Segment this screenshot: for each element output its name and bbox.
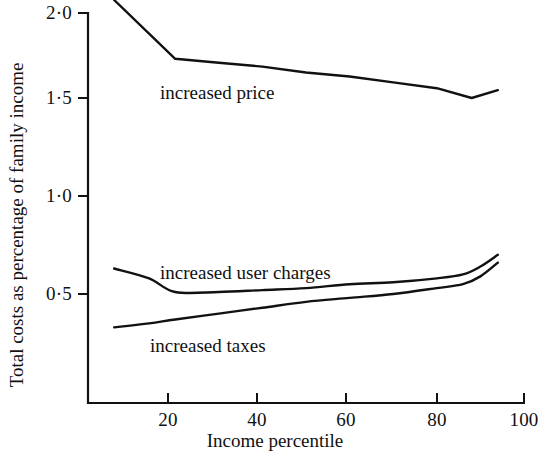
y-axis-ticks bbox=[78, 13, 88, 294]
series-label-increased-user-charges: increased user charges bbox=[160, 262, 331, 284]
x-tick-label-60: 60 bbox=[316, 409, 376, 431]
series-label-increased-price: increased price bbox=[160, 82, 274, 104]
x-tick-label-20: 20 bbox=[138, 409, 198, 431]
x-tick-label-40: 40 bbox=[227, 409, 287, 431]
x-axis-title: Income percentile bbox=[0, 430, 550, 452]
y-axis-title-text: Total costs as percentage of family inco… bbox=[6, 63, 28, 388]
x-tick-label-80: 80 bbox=[407, 409, 467, 431]
series-label-increased-taxes: increased taxes bbox=[150, 335, 266, 357]
x-tick-label-100: 100 bbox=[494, 409, 550, 431]
y-axis-title: Total costs as percentage of family inco… bbox=[0, 0, 34, 450]
